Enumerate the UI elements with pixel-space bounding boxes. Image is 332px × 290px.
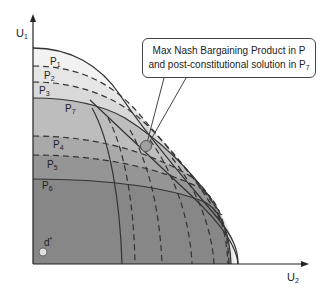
- callout-line-2: and post-constitutional solution in P7: [143, 58, 315, 72]
- callout-box: Max Nash Bargaining Product in P and pos…: [142, 38, 316, 78]
- label-p7-text: P: [65, 103, 72, 114]
- label-p2-text: P: [44, 70, 51, 81]
- label-p2-sub: 2: [51, 75, 55, 82]
- nash-solution-point: [141, 141, 152, 152]
- label-p1-sub: 1: [57, 61, 61, 68]
- x-axis-arrow-icon: [301, 261, 309, 267]
- y-axis-label-sub: 1: [24, 33, 28, 40]
- label-p6-text: P: [42, 180, 49, 191]
- label-p4-text: P: [53, 139, 60, 150]
- x-axis-label-sub: 2: [295, 277, 299, 284]
- label-p4: P4: [53, 140, 64, 151]
- disagreement-point: [39, 248, 47, 256]
- label-p1-text: P: [50, 56, 57, 67]
- disagreement-label-sup: *: [50, 236, 53, 243]
- label-p6: P6: [42, 181, 53, 192]
- x-axis-label-text: U: [287, 271, 295, 283]
- callout-line-1: Max Nash Bargaining Product in P: [143, 44, 315, 58]
- label-p5: P5: [47, 160, 58, 171]
- label-p3-text: P: [39, 85, 46, 96]
- callout-tail-right: [149, 78, 186, 143]
- x-axis-label: U2: [287, 272, 299, 284]
- callout-line-2-text: and post-constitutional solution in P: [148, 59, 305, 70]
- label-p3-sub: 3: [46, 90, 50, 97]
- y-axis-label-text: U: [16, 27, 24, 39]
- label-p6-sub: 6: [49, 185, 53, 192]
- disagreement-label: d*: [44, 236, 52, 248]
- label-p1: P1: [50, 57, 61, 68]
- bargaining-diagram: U1 U2 P1 P2 P3 P7 P4 P5 P6 d* Max Nash B…: [0, 0, 332, 290]
- label-p2: P2: [44, 71, 55, 82]
- label-p5-sub: 5: [54, 164, 58, 171]
- label-p5-text: P: [47, 159, 54, 170]
- label-p4-sub: 4: [60, 144, 64, 151]
- callout-line-2-sub: 7: [306, 64, 310, 71]
- label-p7-sub: 7: [72, 108, 76, 115]
- y-axis-label: U1: [16, 28, 28, 40]
- label-p3: P3: [39, 86, 50, 97]
- y-axis-arrow-icon: [30, 14, 36, 22]
- label-p7: P7: [65, 104, 76, 115]
